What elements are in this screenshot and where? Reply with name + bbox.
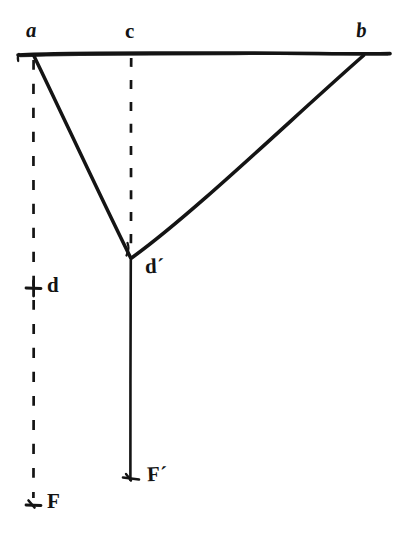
baseline-left-hook <box>18 54 19 61</box>
label-f-prime: F´ <box>147 464 169 486</box>
baseline-ab-overlay <box>20 54 388 56</box>
label-d: d <box>47 275 59 296</box>
segment-b-dprime <box>132 56 364 259</box>
tick-d <box>26 281 41 296</box>
tick-F <box>26 501 41 508</box>
diagram-canvas: a c b d´ d F F´ <box>0 0 396 541</box>
label-f: F <box>47 491 60 512</box>
label-a: a <box>25 20 37 42</box>
label-c: c <box>125 21 135 42</box>
baseline-ab-group <box>18 53 390 61</box>
segment-a-dprime <box>34 55 131 258</box>
geometry-figure <box>0 0 396 541</box>
label-b: b <box>355 20 367 42</box>
label-d-prime: d´ <box>145 256 165 278</box>
